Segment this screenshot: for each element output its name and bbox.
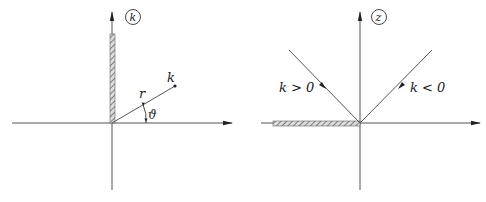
- point-label-k: k: [167, 70, 175, 85]
- branch-cut-hatched: [273, 121, 360, 126]
- k-plane-panel: k k r ϑ: [12, 10, 232, 191]
- diagram: k k r ϑ z k > 0 k < 0: [0, 0, 486, 202]
- ray-label-k-negative: k < 0: [410, 80, 445, 95]
- radius-label-r: r: [139, 86, 146, 101]
- z-plane-panel: z k > 0 k < 0: [261, 10, 480, 191]
- ray-label-k-positive: k > 0: [279, 80, 314, 95]
- arrow-k-positive: [319, 82, 326, 89]
- angle-label-theta: ϑ: [148, 108, 157, 122]
- branch-cut-hatched: [110, 34, 115, 123]
- plane-label-k: k: [130, 11, 137, 24]
- plane-label-z: z: [375, 11, 382, 24]
